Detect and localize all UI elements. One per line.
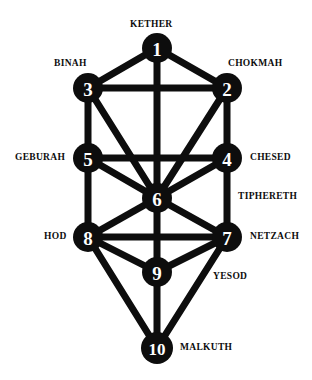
sephira-number-9: 9	[152, 263, 162, 284]
sephira-label-yesod: YESOD	[213, 272, 247, 282]
sephira-number-4: 4	[222, 149, 232, 170]
tree-of-life-diagram: 12345678910 KETHERCHOKMAHBINAHCHESEDGEBU…	[0, 0, 312, 380]
sephira-label-tiphereth: TIPHERETH	[238, 192, 297, 202]
sephira-number-10: 10	[149, 340, 166, 359]
sephira-label-geburah: GEBURAH	[15, 153, 65, 163]
sephira-label-chokmah: CHOKMAH	[228, 59, 282, 69]
sephira-number-5: 5	[83, 149, 93, 170]
sephira-node-tiphereth[interactable]: 6	[142, 183, 172, 213]
sephira-label-malkuth: MALKUTH	[180, 343, 232, 353]
sephira-number-2: 2	[222, 79, 232, 100]
sephira-number-6: 6	[152, 189, 162, 210]
sephira-label-binah: BINAH	[54, 59, 87, 69]
sephira-label-kether: KETHER	[130, 20, 172, 30]
sephira-node-kether[interactable]: 1	[142, 33, 172, 63]
sephira-node-chesed[interactable]: 4	[212, 143, 242, 173]
tree-of-life-canvas: 12345678910	[0, 0, 312, 380]
sephira-node-chokmah[interactable]: 2	[212, 73, 242, 103]
sephira-number-1: 1	[152, 39, 162, 60]
sephira-node-binah[interactable]: 3	[73, 73, 103, 103]
sephira-label-chesed: CHESED	[250, 153, 291, 163]
sephira-node-geburah[interactable]: 5	[73, 143, 103, 173]
sephira-number-7: 7	[222, 228, 232, 249]
sephira-node-yesod[interactable]: 9	[142, 257, 172, 287]
sephira-node-hod[interactable]: 8	[73, 222, 103, 252]
sephira-node-malkuth[interactable]: 10	[141, 332, 173, 364]
sephira-label-hod: HOD	[44, 232, 67, 242]
sephira-label-netzach: NETZACH	[250, 232, 299, 242]
sephira-number-3: 3	[83, 79, 93, 100]
sephira-number-8: 8	[83, 228, 93, 249]
sephira-node-netzach[interactable]: 7	[212, 222, 242, 252]
